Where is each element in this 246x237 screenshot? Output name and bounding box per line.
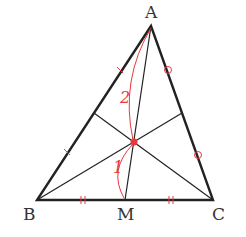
medians	[37, 26, 213, 200]
ratio-label-1: 1	[113, 158, 123, 177]
triangle-abc	[37, 26, 213, 200]
label-a: A	[144, 2, 158, 22]
equal-marks	[64, 67, 202, 205]
label-b: B	[23, 204, 36, 224]
triangle	[37, 26, 213, 200]
centroid-point	[131, 139, 138, 146]
median-b	[37, 113, 182, 200]
label-m: M	[117, 204, 134, 224]
ratio-label-2: 2	[119, 88, 130, 107]
centroid-diagram: A B C M 2 1	[0, 0, 246, 237]
label-c: C	[212, 204, 225, 224]
